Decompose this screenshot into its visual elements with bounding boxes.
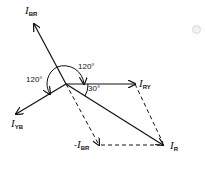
angle-label-upper: 120° [78,63,95,71]
vector-i-yb [16,84,66,114]
angle-label-left: 120° [26,76,43,84]
label-i-r: IR [170,140,178,152]
angle-label-30: 30° [88,85,100,93]
label-neg-i-br: -IBR [74,139,89,151]
circle-icon[interactable] [192,25,201,34]
label-i-ry: IRY [139,78,151,90]
vector-neg-i-br [66,84,99,145]
label-i-yb: IYB [11,118,23,130]
dashed-edge-right [135,84,163,143]
label-i-br: IBR [25,5,37,17]
vector-i-r [66,84,163,145]
